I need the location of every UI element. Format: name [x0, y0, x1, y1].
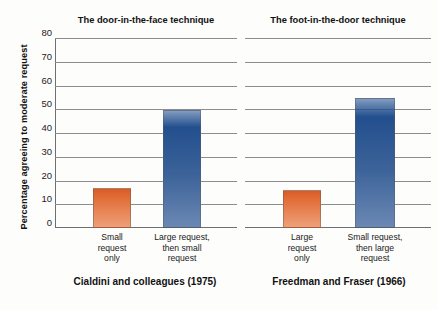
gridline-10: [55, 204, 237, 205]
gridline-10-r: [245, 204, 431, 205]
gridline-0-baseline: [55, 227, 237, 228]
gridline-30: [55, 157, 237, 158]
cat-right-2-line2: then large: [335, 243, 415, 254]
gridline-40-r: [245, 133, 431, 134]
category-label-right-1: Large request only: [262, 232, 342, 264]
category-label-right-2: Small request, then large request: [335, 232, 415, 264]
gridline-70-r: [245, 62, 431, 63]
y-tick-50: 50: [26, 98, 52, 109]
cat-right-1-line1: Large: [262, 232, 342, 243]
gridline-30-r: [245, 157, 431, 158]
gridline-80: [55, 38, 237, 39]
y-tick-80: 80: [26, 27, 52, 38]
gridline-80-r: [245, 38, 431, 39]
cat-left-1-line1: Small: [72, 232, 152, 243]
gridline-20-r: [245, 181, 431, 182]
y-tick-20: 20: [26, 169, 52, 180]
panel-door-in-the-face: The door-in-the-face technique: [55, 38, 237, 228]
cat-right-2-line3: request: [335, 253, 415, 264]
gridline-50-r: [245, 109, 431, 110]
gridline-20: [55, 181, 237, 182]
caption-left: Cialdini and colleagues (1975): [45, 276, 245, 287]
gridline-50: [55, 109, 237, 110]
gridline-40: [55, 133, 237, 134]
figure-root: Percentage agreeing to moderate request …: [0, 0, 437, 310]
panel-left-title: The door-in-the-face technique: [55, 15, 237, 25]
gridline-60: [55, 86, 237, 87]
panel-right-title: The foot-in-the-door technique: [245, 15, 431, 25]
cat-left-2-line2: then small: [142, 243, 222, 254]
bar-left-small-request-only[interactable]: [93, 188, 131, 228]
y-axis-tick-labels: 80 70 60 50 40 30 20 10 0: [26, 32, 52, 228]
category-labels-right: Large request only Small request, then l…: [245, 232, 431, 272]
cat-left-1-line3: only: [72, 253, 152, 264]
y-tick-70: 70: [26, 50, 52, 61]
cat-left-2-line3: request: [142, 253, 222, 264]
gridline-60-r: [245, 86, 431, 87]
y-tick-30: 30: [26, 145, 52, 156]
category-label-left-2: Large request, then small request: [142, 232, 222, 264]
y-tick-10: 10: [26, 193, 52, 204]
cat-right-1-line3: only: [262, 253, 342, 264]
bar-right-large-request-only[interactable]: [283, 190, 321, 228]
bar-left-large-then-small-request[interactable]: [163, 110, 201, 228]
cat-left-2-line1: Large request,: [142, 232, 222, 243]
y-tick-40: 40: [26, 122, 52, 133]
y-tick-60: 60: [26, 74, 52, 85]
y-tick-0: 0: [26, 217, 52, 228]
cat-right-1-line2: request: [262, 243, 342, 254]
category-labels-left: Small request only Large request, then s…: [55, 232, 237, 272]
caption-right: Freedman and Fraser (1966): [243, 276, 435, 287]
panel-foot-in-the-door: The foot-in-the-door technique: [245, 38, 431, 228]
cat-left-1-line2: request: [72, 243, 152, 254]
bar-right-small-then-large-request[interactable]: [355, 98, 395, 228]
gridline-0-baseline-r: [245, 227, 431, 228]
category-label-left-1: Small request only: [72, 232, 152, 264]
cat-right-2-line1: Small request,: [335, 232, 415, 243]
gridline-70: [55, 62, 237, 63]
